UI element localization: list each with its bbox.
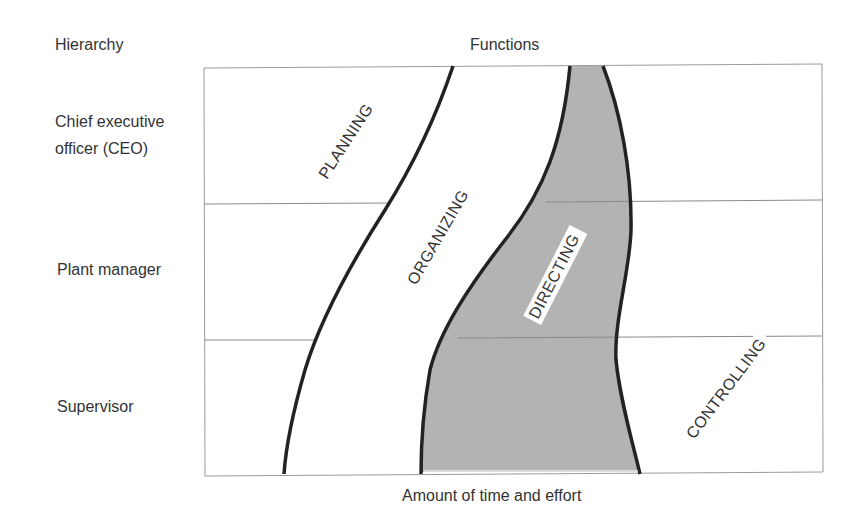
organizing-label: ORGANIZING — [404, 187, 472, 288]
row-divider-1-left — [204, 203, 390, 204]
directing-band — [421, 66, 640, 472]
controlling-label-group: CONTROLLING — [681, 330, 773, 444]
planning-label: PLANNING — [315, 100, 376, 181]
controlling-label: CONTROLLING — [683, 335, 769, 442]
functions-diagram: PLANNING ORGANIZING DIRECTING CONTROLLIN… — [0, 0, 863, 519]
